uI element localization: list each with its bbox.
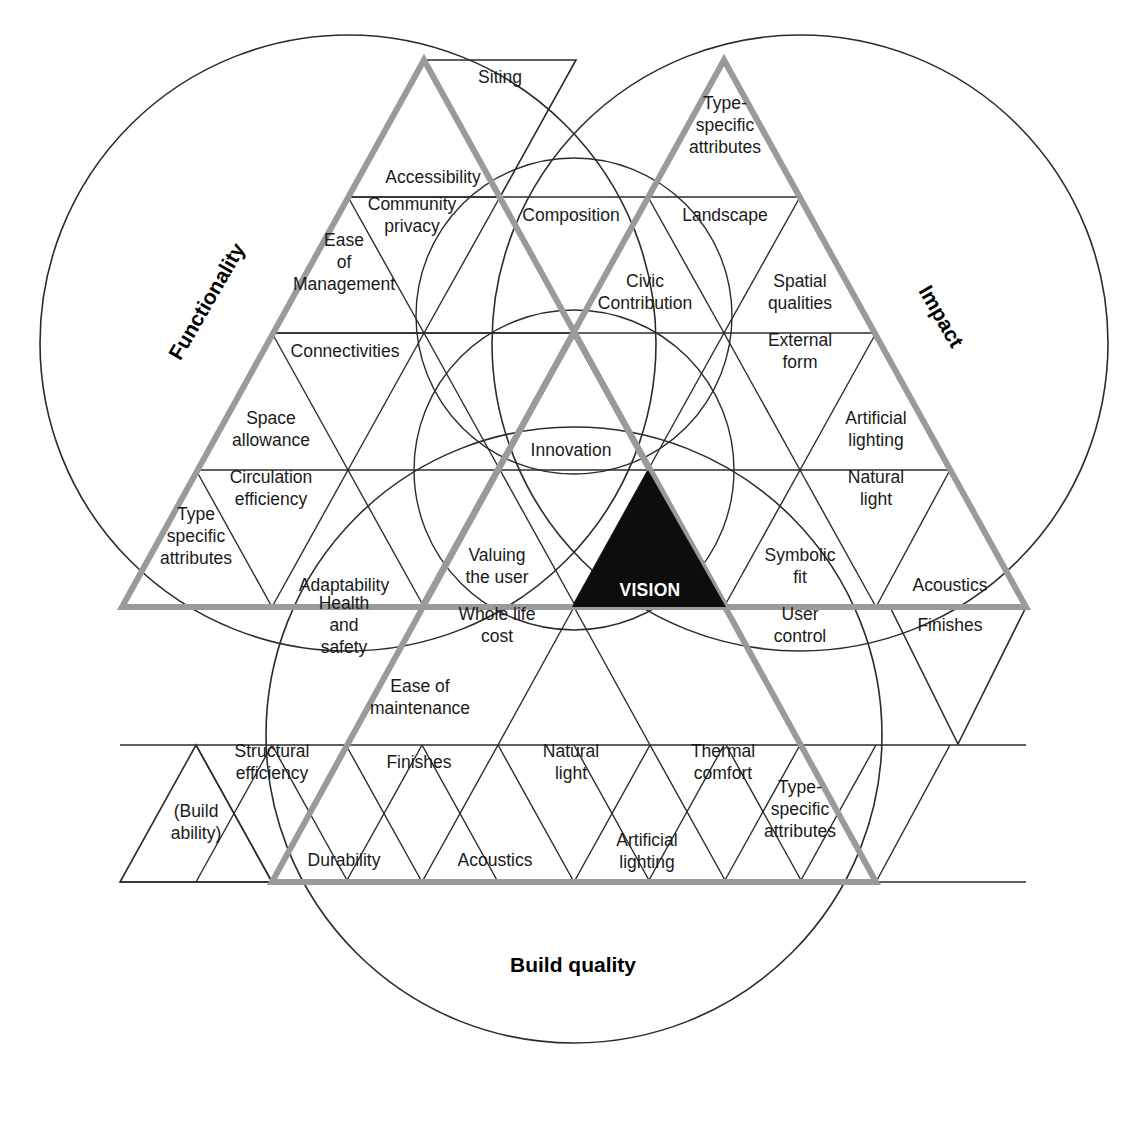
cell-label-accessibility: Accessibility	[385, 167, 481, 187]
cell-label-line: Health	[319, 593, 370, 613]
cell-label-line: efficiency	[236, 763, 309, 783]
cell-label-line: lighting	[619, 852, 674, 872]
cell-label-line: form	[783, 352, 818, 372]
cell-label-line: Spatial	[773, 271, 827, 291]
bq-up-10	[876, 745, 950, 882]
cell-label-line: Type	[177, 504, 215, 524]
bq-dn-1	[574, 607, 650, 745]
cell-label-acoustics-right: Acoustics	[913, 575, 988, 595]
cell-label-innovation: Innovation	[531, 440, 612, 460]
cell-label-line: Management	[293, 274, 395, 294]
cell-label-line: attributes	[689, 137, 761, 157]
cell-label-line: fit	[793, 567, 807, 587]
cell-label-user-control: Usercontrol	[774, 604, 827, 646]
cell-label-valuing-the-user: Valuingthe user	[465, 545, 528, 587]
cell-label-line: attributes	[764, 821, 836, 841]
cell-label-line: Type-	[703, 93, 747, 113]
cell-label-line: specific	[771, 799, 830, 819]
cell-label-line: Ease	[324, 230, 364, 250]
cell-label-line: control	[774, 626, 827, 646]
cell-label-artificial-lighting-right: Artificiallighting	[845, 408, 906, 450]
cell-label-build-ability-cell: (Buildability)	[171, 801, 222, 843]
cell-label-line: Durability	[308, 850, 381, 870]
cell-label-line: Symbolic	[765, 545, 836, 565]
label-build-quality: Build quality	[510, 953, 636, 976]
cell-label-thermal-comfort: Thermalcomfort	[691, 741, 755, 783]
cell-label-ease-of-management: EaseofManagement	[293, 230, 395, 294]
cell-label-composition: Composition	[522, 205, 619, 225]
cell-label-line: of	[337, 252, 352, 272]
cell-label-line: User	[782, 604, 819, 624]
cell-label-line: Composition	[522, 205, 619, 225]
cell-label-space-allowance: Spaceallowance	[232, 408, 310, 450]
cell-label-line: Acoustics	[458, 850, 533, 870]
cell-label-line: External	[768, 330, 832, 350]
e-up-d2	[648, 333, 724, 470]
cell-label-line: Type-	[778, 777, 822, 797]
cell-label-finishes-bottom: Finishes	[386, 752, 451, 772]
vision-label: VISION	[619, 580, 680, 600]
label-impact: Impact	[915, 281, 969, 351]
cell-label-line: Ease of	[390, 676, 449, 696]
cell-label-line: privacy	[384, 216, 440, 236]
cell-label-line: Siting	[478, 67, 522, 87]
cell-label-line: Finishes	[386, 752, 451, 772]
cell-label-line: Connectivities	[291, 341, 400, 361]
design-quality-indicator-diagram: AccessibilityCommunityprivacyComposition…	[0, 0, 1146, 1134]
cell-label-spatial-qualities: Spatialqualities	[768, 271, 832, 313]
cell-label-natural-light-bottom: Naturallight	[543, 741, 599, 783]
cell-label-line: Space	[246, 408, 296, 428]
cell-label-line: Community	[368, 194, 457, 214]
cell-label-line: Natural	[848, 467, 904, 487]
cell-label-line: Valuing	[468, 545, 525, 565]
cell-label-finishes-edge: Finishes	[917, 615, 982, 635]
cell-label-line: Accessibility	[385, 167, 481, 187]
cell-label-line: lighting	[848, 430, 903, 450]
cell-label-line: safety	[321, 637, 368, 657]
cell-label-artificial-lighting-bottom: Artificiallighting	[616, 830, 677, 872]
cell-label-line: Finishes	[917, 615, 982, 635]
cell-label-line: qualities	[768, 293, 832, 313]
cell-label-line: light	[555, 763, 587, 783]
cell-label-line: attributes	[160, 548, 232, 568]
cell-label-line: the user	[465, 567, 528, 587]
cell-label-line: specific	[696, 115, 755, 135]
label-functionality: Functionality	[164, 239, 249, 364]
cell-label-line: maintenance	[370, 698, 470, 718]
cell-label-line: light	[860, 489, 892, 509]
cell-label-civic-contribution: CivicContribution	[598, 271, 692, 313]
circle-build-quality	[266, 427, 882, 1043]
cell-label-line: Artificial	[616, 830, 677, 850]
cell-label-line: comfort	[694, 763, 752, 783]
cell-label-landscape: Landscape	[682, 205, 768, 225]
cell-label-line: Circulation	[230, 467, 313, 487]
cell-label-line: ability)	[171, 823, 222, 843]
cell-label-line: Acoustics	[913, 575, 988, 595]
cell-label-adaptability: Adaptability	[299, 575, 390, 595]
cell-label-natural-light-right: Naturallight	[848, 467, 904, 509]
cell-label-line: efficiency	[235, 489, 308, 509]
cell-label-line: Structural	[235, 741, 310, 761]
cell-label-siting-cell: Siting	[478, 67, 522, 87]
cell-label-line: specific	[167, 526, 226, 546]
cell-label-health-and-safety: Healthandsafety	[319, 593, 370, 657]
cell-label-line: Landscape	[682, 205, 768, 225]
cell-label-structural-efficiency: Structuralefficiency	[235, 741, 310, 783]
cell-label-line: Innovation	[531, 440, 612, 460]
cell-label-acoustics-bottom: Acoustics	[458, 850, 533, 870]
cell-label-line: Adaptability	[299, 575, 390, 595]
cell-label-line: Thermal	[691, 741, 755, 761]
cell-label-line: Whole life	[459, 604, 536, 624]
cell-label-line: (Build	[174, 801, 219, 821]
cell-label-durability: Durability	[308, 850, 381, 870]
cell-label-line: allowance	[232, 430, 310, 450]
cell-label-line: Contribution	[598, 293, 692, 313]
cell-label-connectivities: Connectivities	[291, 341, 400, 361]
cell-label-line: and	[329, 615, 358, 635]
cell-label-circulation-efficiency: Circulationefficiency	[230, 467, 313, 509]
cell-label-line: Civic	[626, 271, 664, 291]
cell-label-external-form: Externalform	[768, 330, 832, 372]
cell-label-line: cost	[481, 626, 513, 646]
cell-label-community-privacy: Communityprivacy	[368, 194, 457, 236]
e-dn-b2	[424, 333, 500, 470]
